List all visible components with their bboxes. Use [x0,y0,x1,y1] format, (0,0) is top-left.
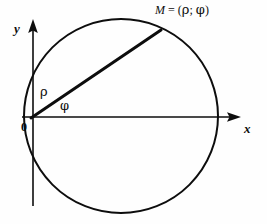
point-m-equals: = ( [165,3,182,17]
diagram-canvas [0,0,267,224]
y-axis-label: y [14,22,20,35]
origin-label: 0 [21,121,27,133]
point-m-close: ) [205,3,209,17]
phi-label: φ [60,99,69,112]
x-axis-label: x [244,122,251,135]
radius-vector-line [31,30,161,118]
rho-label: ρ [40,85,48,98]
point-m-phi: φ [196,2,205,17]
point-m-symbol: M [155,3,165,17]
circle-through-origin [24,19,218,213]
polar-coordinates-figure: y x 0 ρ φ M = (ρ; φ) [0,0,267,224]
point-m-label: M = (ρ; φ) [155,3,209,16]
